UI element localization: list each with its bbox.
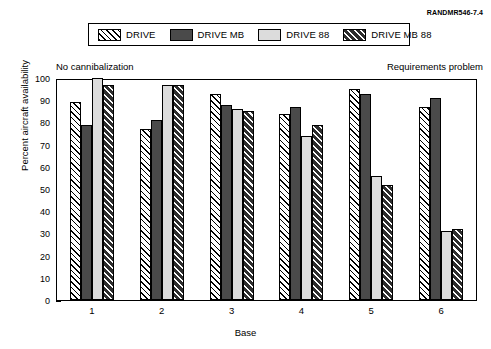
legend-swatch-icon-drive-88: [258, 29, 281, 41]
x-axis-tick-label: 6: [421, 305, 461, 316]
chart-legend: DRIVE DRIVE MB DRIVE 88 DRIVE MB 88: [88, 23, 410, 46]
bar: [290, 107, 301, 300]
x-axis-tick-label: 5: [351, 305, 391, 316]
annotation-left: No cannibalization: [56, 61, 134, 72]
legend-item-drive-mb-88: DRIVE MB 88: [343, 29, 431, 41]
y-axis-tick-label: 20: [26, 252, 50, 262]
y-axis-tick-label: 30: [26, 229, 50, 239]
y-axis-tick-label: 90: [26, 96, 50, 106]
chart-figure: RANDMR546-7.4 DRIVE DRIVE MB DRIVE 88 DR…: [0, 0, 491, 349]
bar: [243, 111, 254, 300]
plot-area: [56, 79, 477, 301]
legend-item-drive: DRIVE: [98, 29, 156, 41]
y-axis-tick-label: 0: [26, 296, 50, 306]
bar: [103, 85, 114, 300]
bar-groups: [57, 80, 476, 300]
bar: [301, 136, 312, 300]
y-axis-tick-label: 10: [26, 274, 50, 284]
legend-label-drive-88: DRIVE 88: [286, 29, 329, 40]
source-credit: RANDMR546-7.4: [427, 9, 483, 16]
bar: [312, 125, 323, 300]
legend-label-drive: DRIVE: [126, 29, 156, 40]
legend-label-drive-mb: DRIVE MB: [198, 29, 245, 40]
x-axis-tick-label: 1: [72, 305, 112, 316]
bar: [441, 231, 452, 300]
bar: [92, 78, 103, 300]
y-axis-tick-label: 100: [26, 74, 50, 84]
legend-item-drive-88: DRIVE 88: [258, 29, 329, 41]
bar: [419, 107, 430, 300]
bar: [173, 85, 184, 300]
bar-group: [349, 80, 393, 300]
bar: [221, 105, 232, 300]
bar: [210, 94, 221, 300]
y-axis-tick-label: 60: [26, 163, 50, 173]
bar: [81, 125, 92, 300]
bar-group: [70, 80, 114, 300]
y-axis-tick-mark: [56, 301, 61, 302]
bar: [430, 98, 441, 300]
bar: [140, 129, 151, 300]
legend-swatch-icon-drive: [98, 29, 121, 41]
bar: [232, 109, 243, 300]
x-axis-title: Base: [0, 327, 491, 338]
y-axis-tick-label: 70: [26, 141, 50, 151]
bar-group: [210, 80, 254, 300]
bar: [371, 176, 382, 300]
y-axis-tick-label: 40: [26, 207, 50, 217]
bar: [360, 94, 371, 300]
legend-label-drive-mb-88: DRIVE MB 88: [371, 29, 431, 40]
y-axis-tick-label: 80: [26, 118, 50, 128]
bar: [151, 120, 162, 300]
x-axis-tick-label: 3: [212, 305, 252, 316]
annotation-right: Requirements problem: [387, 61, 483, 72]
y-axis-tick-label: 50: [26, 185, 50, 195]
legend-swatch-icon-drive-mb: [170, 29, 193, 41]
bar: [452, 229, 463, 300]
x-axis-tick-label: 2: [142, 305, 182, 316]
bar: [279, 114, 290, 300]
bar: [70, 102, 81, 300]
bar-group: [279, 80, 323, 300]
bar: [349, 89, 360, 300]
bar: [162, 85, 173, 300]
x-axis-tick-label: 4: [281, 305, 321, 316]
legend-swatch-icon-drive-mb-88: [343, 29, 366, 41]
legend-item-drive-mb: DRIVE MB: [170, 29, 245, 41]
bar-group: [419, 80, 463, 300]
bar-group: [140, 80, 184, 300]
bar: [382, 185, 393, 300]
